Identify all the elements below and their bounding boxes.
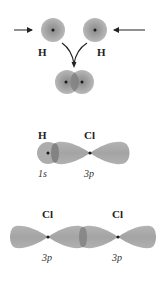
orbital-overlap-diagram: H H H Cl 1s 3p Cl Cl bbox=[0, 0, 165, 287]
h-label: H bbox=[38, 129, 47, 141]
h2-molecule bbox=[55, 70, 94, 94]
h2-formation-panel: H H bbox=[14, 18, 145, 94]
p-lobe bbox=[10, 226, 48, 248]
overlap-region bbox=[79, 227, 87, 248]
h-atom-left bbox=[41, 18, 65, 42]
nucleus-dot bbox=[94, 29, 97, 32]
merge-arrow-left bbox=[62, 43, 74, 64]
nucleus-dot bbox=[81, 81, 84, 84]
cl-3p-orbital bbox=[52, 142, 130, 164]
orbital-label-3p-right: 3p bbox=[111, 252, 122, 263]
orbital-label-3p-left: 3p bbox=[41, 252, 52, 263]
hcl-bond-panel: H Cl 1s 3p bbox=[37, 129, 130, 179]
orbital-label-1s: 1s bbox=[38, 168, 47, 179]
h-label-left: H bbox=[38, 46, 47, 58]
nucleus-dot bbox=[65, 81, 68, 84]
h-label-right: H bbox=[97, 46, 106, 58]
p-lobe bbox=[118, 226, 156, 248]
h-atom-right bbox=[83, 18, 107, 42]
nucleus-dot bbox=[46, 235, 49, 238]
overlap-region bbox=[51, 143, 59, 163]
cl-label: Cl bbox=[84, 129, 95, 141]
p-lobe-right bbox=[90, 142, 130, 164]
merge-arrowhead bbox=[72, 62, 77, 68]
cl2-bond-panel: Cl Cl 3p 3p bbox=[10, 208, 156, 263]
orbital-label-3p: 3p bbox=[83, 168, 94, 179]
cl-label-left: Cl bbox=[42, 208, 53, 220]
nucleus-dot bbox=[47, 152, 50, 155]
nucleus-dot bbox=[116, 235, 119, 238]
cl-3p-orbital-left bbox=[10, 226, 86, 248]
h-1s-orbital bbox=[37, 142, 59, 164]
cl-label-right: Cl bbox=[112, 208, 123, 220]
nucleus-dot bbox=[88, 151, 91, 154]
nucleus-dot bbox=[52, 29, 55, 32]
cl-3p-orbital-right bbox=[80, 226, 156, 248]
merge-arrow-right bbox=[74, 43, 87, 64]
